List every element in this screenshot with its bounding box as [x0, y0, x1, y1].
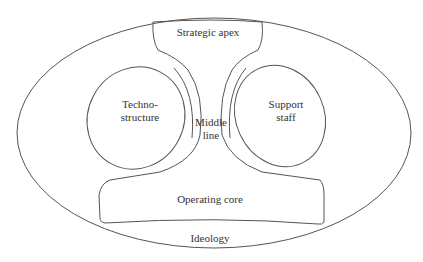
technostructure-label-line2: structure — [110, 111, 170, 124]
strategic-apex-label: Strategic apex — [158, 26, 258, 39]
support-staff-label-line1: Support — [256, 98, 316, 111]
operating-core-label: Operating core — [160, 193, 260, 206]
middle-line-label-line1: Middle — [186, 116, 236, 129]
technostructure-label-line1: Techno- — [110, 98, 170, 111]
support-staff-label-line2: staff — [256, 111, 316, 124]
ideology-label: Ideology — [180, 232, 240, 245]
middle-line-label-line2: line — [186, 129, 236, 142]
